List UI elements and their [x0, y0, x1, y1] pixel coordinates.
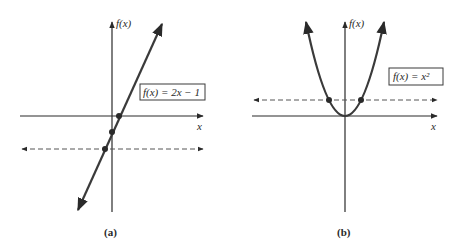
- panel-a: f(x) x f(x) = 2x − 1 (a): [20, 17, 205, 239]
- point-dashed-intersection: [102, 146, 108, 152]
- x-axis-label: x: [196, 120, 202, 132]
- point-x-intercept: [116, 113, 122, 119]
- function-label: f(x) = 2x − 1: [143, 86, 200, 99]
- point-y-intercept: [109, 129, 115, 135]
- function-label: f(x) = x²: [393, 70, 430, 83]
- panel-b: f(x) x f(x) = x² (b): [252, 17, 443, 239]
- figure: f(x) x f(x) = 2x − 1 (a) f(x) x f(x) = x…: [0, 0, 462, 247]
- y-axis-label: f(x): [349, 17, 365, 30]
- y-axis-label: f(x): [116, 17, 132, 30]
- point-left-intersection: [326, 97, 332, 103]
- caption-b: (b): [337, 226, 351, 239]
- caption-a: (a): [104, 226, 117, 239]
- point-right-intersection: [358, 97, 364, 103]
- x-axis-label: x: [430, 120, 436, 132]
